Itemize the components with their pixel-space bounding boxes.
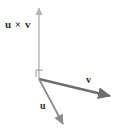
vector-diagram: u × v v u — [0, 0, 120, 136]
label-v: v — [86, 75, 91, 85]
label-u: u — [40, 101, 46, 111]
v-arrow — [39, 79, 110, 96]
label-cross-product: u × v — [5, 19, 31, 30]
